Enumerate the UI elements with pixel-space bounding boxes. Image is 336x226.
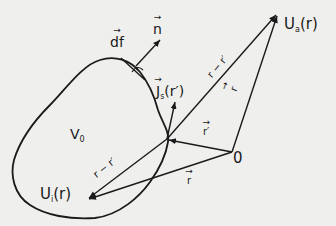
label-r-prime: r′ (203, 127, 209, 137)
r-minus-r-prime-upper (167, 15, 276, 139)
label-Ua: Ua(r) (284, 17, 318, 34)
r-to-Ua-vector (232, 16, 277, 152)
r-prime-vector (169, 140, 232, 152)
label-Ui: Ui(r) (40, 187, 71, 204)
label-r-lower: r (187, 176, 191, 186)
normal-vector (136, 40, 160, 66)
label-origin: 0 (233, 151, 243, 166)
label-normal: n (153, 22, 162, 36)
label-df: df (110, 35, 124, 49)
diagram-canvas: df n Js(r′) Ua(r) Ui(r) V0 0 r′ r r r − … (0, 0, 336, 226)
right-angle-dot (136, 68, 138, 70)
label-volume: V0 (70, 127, 85, 144)
label-surface-current: Js(r′) (156, 84, 184, 101)
volume-boundary (13, 58, 169, 218)
